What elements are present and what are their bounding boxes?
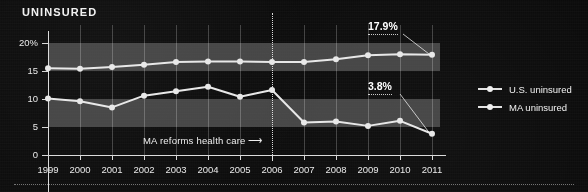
legend-marker-icon	[478, 84, 502, 94]
legend-marker-icon	[478, 102, 502, 112]
chart-container: UNINSURED 20%151050 19992000200120022003…	[0, 0, 588, 192]
reform-annotation-label: MA reforms health care ⟶	[143, 135, 263, 146]
legend-item-ma-uninsured[interactable]: MA uninsured	[478, 98, 572, 116]
footer-divider	[14, 184, 574, 185]
leader-line-ma	[400, 94, 430, 134]
legend-label: U.S. uninsured	[509, 84, 572, 95]
leader-line-us	[403, 34, 430, 55]
legend: U.S. uninsured MA uninsured	[478, 80, 572, 116]
legend-item-us-uninsured[interactable]: U.S. uninsured	[478, 80, 572, 98]
legend-label: MA uninsured	[509, 102, 567, 113]
